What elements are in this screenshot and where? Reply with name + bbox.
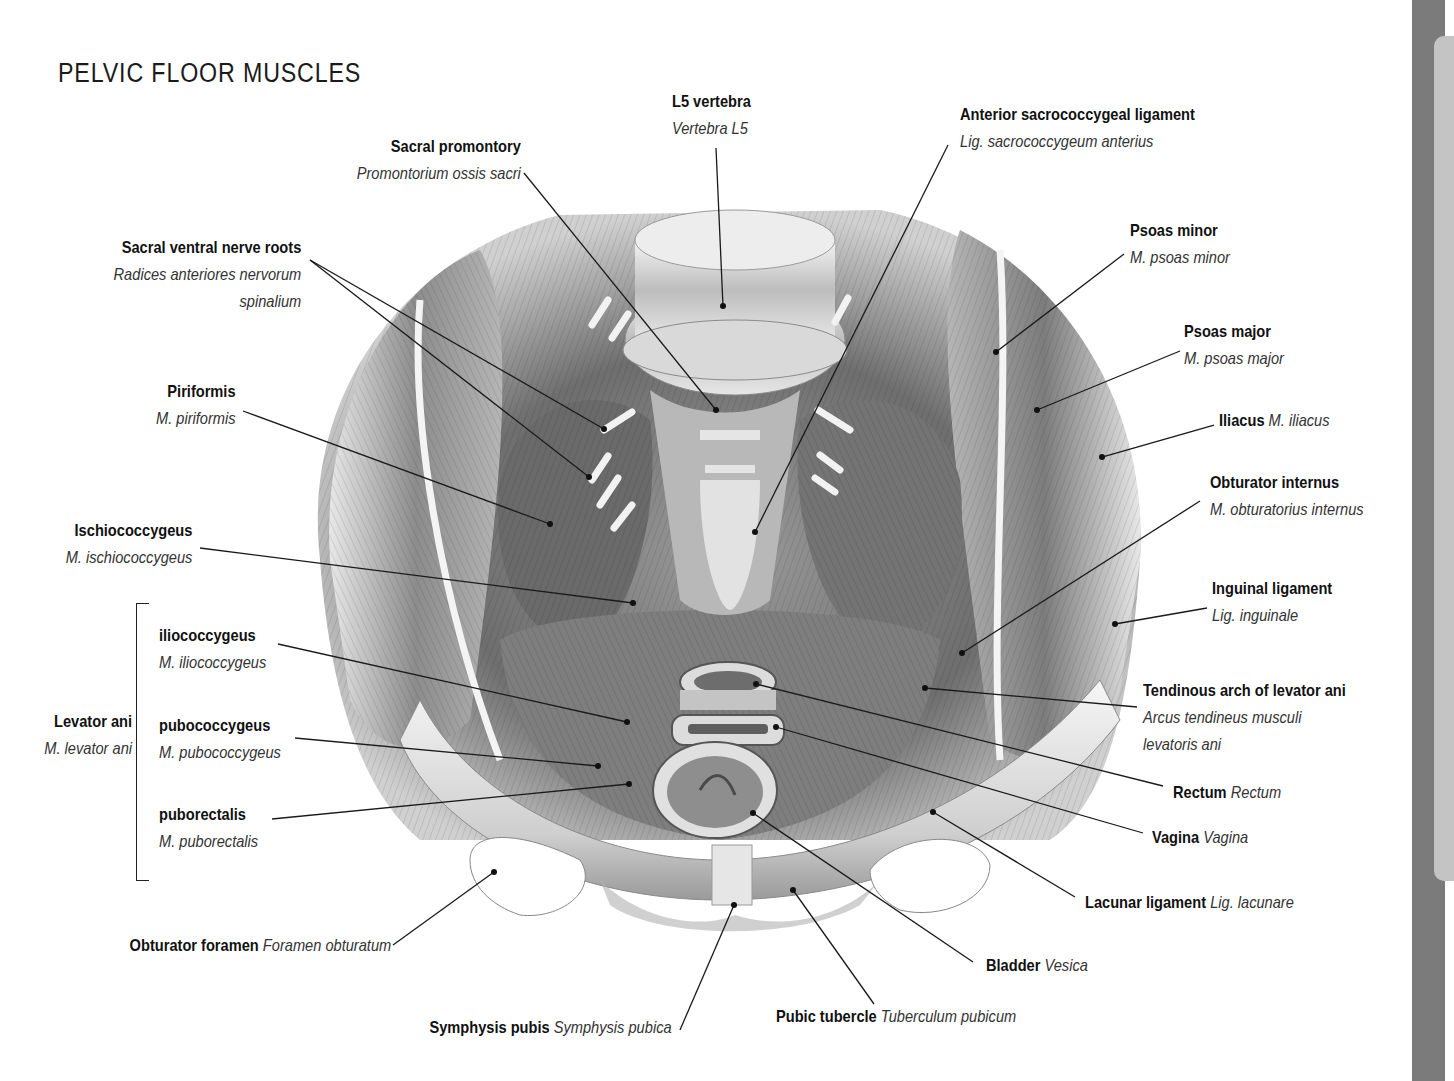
- label-la: Lig. sacrococcygeum anterius: [960, 128, 1195, 155]
- label-la: levatoris ani: [1143, 731, 1346, 758]
- label-la: Tuberculum pubicum: [881, 1007, 1016, 1026]
- label-en: Ischiococcygeus: [65, 517, 192, 544]
- label-lacunar-ligament: Lacunar ligament Lig. lacunare: [1085, 889, 1294, 916]
- page-edge-tab: [1434, 36, 1454, 881]
- label-en: L5 vertebra: [672, 88, 751, 115]
- label-en: Inguinal ligament: [1212, 575, 1332, 602]
- label-levator-ani: Levator ani M. levator ani: [44, 708, 132, 762]
- label-ischiococcygeus: Ischiococcygeus M. ischiococcygeus: [65, 517, 192, 571]
- label-la: M. obturatorius internus: [1210, 496, 1364, 523]
- label-bladder: Bladder Vesica: [986, 952, 1088, 979]
- label-la: M. levator ani: [44, 735, 132, 762]
- label-la: Foramen obturatum: [263, 936, 391, 955]
- label-rectum: Rectum Rectum: [1173, 779, 1281, 806]
- label-en: Iliacus: [1219, 411, 1265, 430]
- label-la: M. pubococcygeus: [159, 739, 281, 766]
- label-pubic-tubercle: Pubic tubercle Tuberculum pubicum: [776, 1003, 1016, 1030]
- label-psoas-minor: Psoas minor M. psoas minor: [1130, 217, 1230, 271]
- label-anterior-sacrococcygeal-ligament: Anterior sacrococcygeal ligament Lig. sa…: [960, 101, 1195, 155]
- label-la: Arcus tendineus musculi: [1143, 704, 1346, 731]
- label-en: Piriformis: [156, 378, 236, 405]
- label-la: M. psoas major: [1184, 345, 1284, 372]
- label-la: Lig. inguinale: [1212, 602, 1332, 629]
- label-iliacus: Iliacus M. iliacus: [1219, 407, 1330, 434]
- label-sacral-promontory: Sacral promontory Promontorium ossis sac…: [357, 133, 521, 187]
- label-tendinous-arch: Tendinous arch of levator ani Arcus tend…: [1143, 677, 1346, 758]
- page-edge-bar: [1412, 0, 1445, 1081]
- label-la: M. iliococcygeus: [159, 649, 266, 676]
- label-en: pubococcygeus: [159, 712, 281, 739]
- label-la: Radices anteriores nervorum: [113, 261, 301, 288]
- label-symphysis-pubis: Symphysis pubis Symphysis pubica: [430, 1014, 672, 1041]
- label-en: Obturator foramen: [129, 936, 258, 955]
- label-l5-vertebra: L5 vertebra Vertebra L5: [672, 88, 751, 142]
- label-en: Vagina: [1152, 828, 1199, 847]
- label-en: Levator ani: [44, 708, 132, 735]
- label-en: Lacunar ligament: [1085, 893, 1206, 912]
- label-la: Symphysis pubica: [554, 1018, 672, 1037]
- symphysis: [712, 845, 752, 905]
- label-en: Sacral ventral nerve roots: [113, 234, 301, 261]
- label-piriformis: Piriformis M. piriformis: [156, 378, 236, 432]
- label-la: M. iliacus: [1269, 411, 1330, 430]
- label-en: Anterior sacrococcygeal ligament: [960, 101, 1195, 128]
- label-la: Lig. lacunare: [1210, 893, 1294, 912]
- label-la: M. piriformis: [156, 405, 236, 432]
- label-pubococcygeus: pubococcygeus M. pubococcygeus: [159, 712, 281, 766]
- label-vagina: Vagina Vagina: [1152, 824, 1248, 851]
- label-la: Vertebra L5: [672, 115, 751, 142]
- label-iliococcygeus: iliococcygeus M. iliococcygeus: [159, 622, 266, 676]
- label-la: M. ischiococcygeus: [65, 544, 192, 571]
- label-en: Bladder: [986, 956, 1040, 975]
- label-la: Promontorium ossis sacri: [357, 160, 521, 187]
- label-psoas-major: Psoas major M. psoas major: [1184, 318, 1284, 372]
- label-sacral-ventral-nerve-roots: Sacral ventral nerve roots Radices anter…: [113, 234, 301, 315]
- label-la: Vesica: [1045, 956, 1088, 975]
- levator-ani-bracket: [136, 603, 149, 881]
- label-en: iliococcygeus: [159, 622, 266, 649]
- label-en: Tendinous arch of levator ani: [1143, 677, 1346, 704]
- label-en: Psoas major: [1184, 318, 1284, 345]
- label-puborectalis: puborectalis M. puborectalis: [159, 801, 258, 855]
- label-en: Symphysis pubis: [430, 1018, 550, 1037]
- label-en: Obturator internus: [1210, 469, 1364, 496]
- label-obturator-foramen: Obturator foramen Foramen obturatum: [129, 932, 391, 959]
- label-la: Rectum: [1231, 783, 1281, 802]
- label-la: Vagina: [1203, 828, 1248, 847]
- label-en: Psoas minor: [1130, 217, 1230, 244]
- label-inguinal-ligament: Inguinal ligament Lig. inguinale: [1212, 575, 1332, 629]
- label-en: puborectalis: [159, 801, 258, 828]
- label-obturator-internus: Obturator internus M. obturatorius inter…: [1210, 469, 1364, 523]
- label-en: Sacral promontory: [357, 133, 521, 160]
- label-en: Rectum: [1173, 783, 1227, 802]
- label-la: M. psoas minor: [1130, 244, 1230, 271]
- label-la: M. puborectalis: [159, 828, 258, 855]
- label-la: spinalium: [113, 288, 301, 315]
- label-en: Pubic tubercle: [776, 1007, 877, 1026]
